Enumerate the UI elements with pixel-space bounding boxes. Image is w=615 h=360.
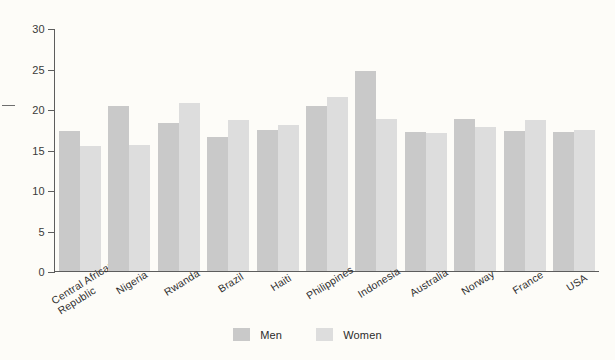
- x-axis-tick-label: Brazil: [216, 271, 245, 295]
- legend-swatch-men: [233, 328, 250, 341]
- bar-group: Norway: [451, 29, 500, 271]
- chart-legend: Men Women: [0, 328, 615, 341]
- y-axis-tick-label: 15: [32, 145, 45, 157]
- bar-men[interactable]: [158, 123, 179, 271]
- x-axis-tick-label: Haiti: [268, 272, 293, 293]
- bar-women[interactable]: [129, 145, 150, 271]
- bar-group: Australia: [401, 29, 450, 271]
- bar-group: France: [500, 29, 549, 271]
- legend-item-men: Men: [233, 328, 282, 341]
- bar-men[interactable]: [59, 131, 80, 271]
- bar-group: Philippines: [302, 29, 351, 271]
- y-axis-tick: [48, 151, 55, 152]
- bar-women[interactable]: [278, 125, 299, 271]
- bar-group: Central African Republic: [55, 29, 104, 271]
- bar-men[interactable]: [504, 131, 525, 271]
- x-axis-tick-label: USA: [565, 272, 590, 294]
- y-axis-tick: [48, 70, 55, 71]
- bar-groups: Central African RepublicNigeriaRwandaBra…: [55, 29, 599, 271]
- y-axis-tick-label: 5: [39, 226, 45, 238]
- edge-tick-mark: [2, 105, 15, 106]
- y-axis-tick: [48, 272, 55, 273]
- y-axis-tick-label: 10: [32, 185, 45, 197]
- bar-chart: 051015202530 Central African RepublicNig…: [0, 0, 615, 360]
- bar-men[interactable]: [306, 106, 327, 271]
- plot-area: 051015202530 Central African RepublicNig…: [54, 29, 599, 272]
- bar-men[interactable]: [454, 119, 475, 271]
- y-axis-tick-label: 0: [39, 266, 45, 278]
- x-axis-tick-label: France: [510, 269, 545, 297]
- bar-men[interactable]: [257, 130, 278, 271]
- bar-women[interactable]: [327, 97, 348, 271]
- legend-label-men: Men: [260, 329, 282, 341]
- bar-men[interactable]: [553, 132, 574, 271]
- bar-women[interactable]: [376, 119, 397, 271]
- legend-swatch-women: [316, 328, 333, 341]
- y-axis-tick: [48, 232, 55, 233]
- bar-men[interactable]: [207, 137, 228, 271]
- bar-group: Brazil: [203, 29, 252, 271]
- x-axis-tick-label: Rwanda: [162, 267, 202, 298]
- y-axis-tick-label: 25: [32, 64, 45, 76]
- y-axis-tick-label: 30: [32, 23, 45, 35]
- y-axis-tick-label: 20: [32, 104, 45, 116]
- bar-group: Indonesia: [352, 29, 401, 271]
- x-axis-tick-label: Norway: [460, 268, 497, 297]
- bar-women[interactable]: [475, 127, 496, 271]
- bar-group: Nigeria: [104, 29, 153, 271]
- legend-label-women: Women: [343, 329, 382, 341]
- bar-group: Haiti: [253, 29, 302, 271]
- bar-women[interactable]: [426, 133, 447, 271]
- y-axis-tick: [48, 110, 55, 111]
- bar-group: Rwanda: [154, 29, 203, 271]
- bar-women[interactable]: [574, 130, 595, 271]
- y-axis-tick: [48, 29, 55, 30]
- bar-women[interactable]: [525, 120, 546, 271]
- bar-women[interactable]: [80, 146, 101, 271]
- bar-women[interactable]: [179, 103, 200, 271]
- bar-women[interactable]: [228, 120, 249, 271]
- bar-group: USA: [550, 29, 599, 271]
- legend-item-women: Women: [316, 328, 382, 341]
- bar-men[interactable]: [355, 71, 376, 271]
- bar-men[interactable]: [405, 132, 426, 271]
- y-axis-tick: [48, 191, 55, 192]
- bar-men[interactable]: [108, 106, 129, 271]
